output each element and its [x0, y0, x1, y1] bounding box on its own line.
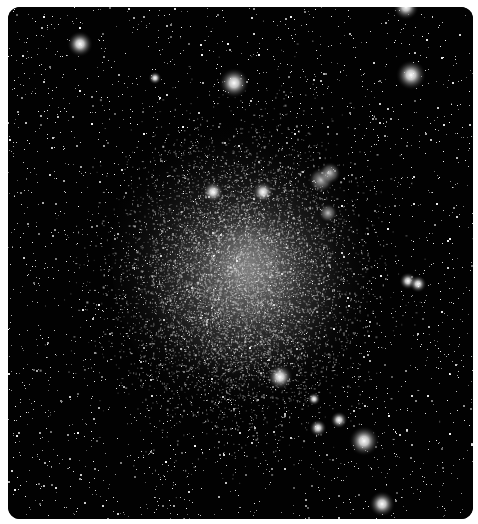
starfield-galaxy-image — [8, 7, 473, 519]
astronomy-image-frame — [8, 7, 473, 519]
